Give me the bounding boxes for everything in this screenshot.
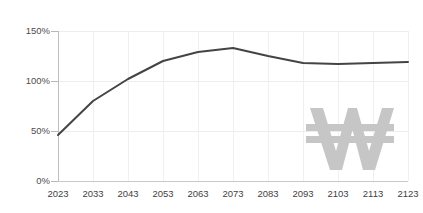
x-axis-label-2123: 2123	[391, 188, 423, 199]
x-axis-label-2023: 2023	[41, 188, 75, 199]
x-axis-label-2113: 2113	[356, 188, 390, 199]
x-axis-label-2053: 2053	[146, 188, 180, 199]
x-axis-label-2043: 2043	[111, 188, 145, 199]
x-axis-label-2103: 2103	[321, 188, 355, 199]
x-axis-label-2083: 2083	[251, 188, 285, 199]
x-axis-label-2073: 2073	[216, 188, 250, 199]
series-line-path	[58, 48, 408, 135]
x-axis-label-2033: 2033	[76, 188, 110, 199]
x-axis-label-2093: 2093	[286, 188, 320, 199]
x-axis-label-2063: 2063	[181, 188, 215, 199]
